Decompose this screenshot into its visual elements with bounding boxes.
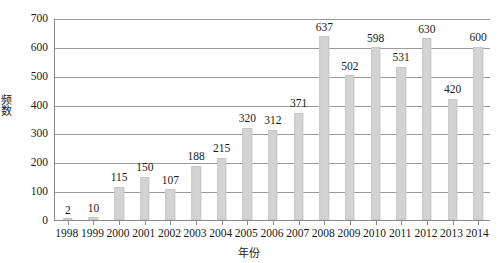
x-axis-tick-label: 2005 (235, 228, 258, 240)
bar-slot: 371 (286, 19, 312, 220)
y-axis-tick-label: 700 (4, 13, 48, 25)
y-axis-tick-label: 200 (4, 158, 48, 170)
bar[interactable] (294, 113, 304, 220)
x-axis-tick-mark (453, 221, 454, 225)
y-axis-title: 频数 (0, 94, 14, 116)
x-axis-tick-label: 2010 (363, 228, 386, 240)
x-axis-tick-label: 1999 (81, 228, 104, 240)
x-axis-tick-mark (350, 221, 351, 225)
bar-slot: 502 (337, 19, 363, 220)
bar-slot: 320 (235, 19, 261, 220)
bar[interactable] (448, 99, 458, 220)
x-axis-tick-mark (427, 221, 428, 225)
x-axis-tick-label: 2006 (261, 228, 284, 240)
x-axis-tick-mark (376, 221, 377, 225)
x-axis-tick-mark (478, 221, 479, 225)
x-axis-tick-label: 2000 (107, 228, 130, 240)
x-axis-tick-mark (222, 221, 223, 225)
x-axis-tick-mark (145, 221, 146, 225)
x-axis-tick-label: 2002 (158, 228, 181, 240)
x-axis-tick-label: 2008 (312, 228, 335, 240)
y-axis-tick-label: 600 (4, 42, 48, 54)
bar[interactable] (396, 67, 406, 220)
y-axis-tick-label: 500 (4, 71, 48, 83)
bar-slot: 600 (465, 19, 491, 220)
x-axis-tick-label: 1998 (55, 228, 78, 240)
bar-slot: 637 (311, 19, 337, 220)
bar-value-label: 10 (88, 203, 100, 215)
bar-value-label: 215 (213, 143, 230, 155)
bar[interactable] (140, 177, 150, 220)
bar-slot: 115 (106, 19, 132, 220)
x-axis-tick-mark (68, 221, 69, 225)
x-axis-tick-label: 2004 (209, 228, 232, 240)
x-axis-tick-mark (273, 221, 274, 225)
bar-value-label: 600 (470, 32, 487, 44)
x-axis-title: 年份 (0, 244, 497, 260)
x-axis-tick-mark (196, 221, 197, 225)
bar-slot: 107 (158, 19, 184, 220)
bar[interactable] (63, 218, 73, 220)
bar-slot: 150 (132, 19, 158, 220)
bar[interactable] (217, 158, 227, 220)
bar-slot: 420 (440, 19, 466, 220)
x-axis-tick-mark (401, 221, 402, 225)
bar[interactable] (422, 38, 432, 220)
bar-value-label: 107 (162, 175, 179, 187)
bar-value-label: 420 (444, 84, 461, 96)
bar[interactable] (345, 75, 355, 220)
bar-value-label: 188 (187, 151, 204, 163)
bar[interactable] (166, 189, 176, 220)
bar[interactable] (371, 47, 381, 220)
bar[interactable] (473, 47, 483, 220)
x-axis-tick-label: 2014 (466, 228, 489, 240)
bar-value-label: 630 (418, 24, 435, 36)
x-axis-tick-label: 2013 (440, 228, 463, 240)
bar-value-label: 115 (111, 172, 128, 184)
bar[interactable] (243, 128, 253, 220)
x-axis-tick-label: 2003 (184, 228, 207, 240)
bar-slot: 10 (81, 19, 107, 220)
x-axis-tick-mark (299, 221, 300, 225)
bar-value-label: 598 (367, 33, 384, 45)
bar[interactable] (268, 130, 278, 220)
bar-value-label: 502 (341, 61, 358, 73)
bar-slot: 2 (55, 19, 81, 220)
y-axis-tick-label: 100 (4, 186, 48, 198)
x-axis-tick-mark (247, 221, 248, 225)
x-axis-tick-mark (170, 221, 171, 225)
bar[interactable] (320, 36, 330, 220)
x-axis-tick-label: 2011 (389, 228, 412, 240)
bar-slot: 312 (260, 19, 286, 220)
x-axis-tick-label: 2001 (132, 228, 155, 240)
x-axis-tick-mark (324, 221, 325, 225)
bar-value-label: 637 (316, 22, 333, 34)
x-axis-tick-label: 2007 (286, 228, 309, 240)
x-axis-tick-label: 2012 (414, 228, 437, 240)
y-axis-tick-label: 300 (4, 129, 48, 141)
bar-value-label: 371 (290, 98, 307, 110)
bar-value-label: 312 (264, 115, 281, 127)
bar[interactable] (114, 187, 124, 220)
bar-slot: 531 (388, 19, 414, 220)
bar-slot: 215 (209, 19, 235, 220)
bar[interactable] (191, 166, 201, 220)
x-axis-tick-mark (119, 221, 120, 225)
bar-chart: 频数 0100200300400500600700 21011515010718… (0, 0, 497, 263)
bar-value-label: 2 (65, 205, 71, 217)
x-axis-tick-mark (93, 221, 94, 225)
bar-value-label: 320 (239, 113, 256, 125)
y-axis-tick-label: 0 (4, 215, 48, 227)
plot-area: 2101151501071882153203123716375025985316… (54, 19, 490, 221)
bar-value-label: 531 (393, 52, 410, 64)
bar-slot: 598 (363, 19, 389, 220)
bar-value-label: 150 (136, 162, 153, 174)
bar-slot: 630 (414, 19, 440, 220)
bar-slot: 188 (183, 19, 209, 220)
bar[interactable] (89, 217, 99, 220)
x-axis-tick-label: 2009 (337, 228, 360, 240)
